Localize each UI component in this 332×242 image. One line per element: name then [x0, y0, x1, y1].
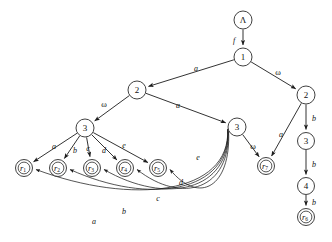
node-label: 3	[304, 136, 309, 146]
edge-layer	[34, 30, 306, 206]
edge-label-n3L-to-r3: c	[86, 144, 90, 153]
edge-label-n2L-to-n3L: ω	[101, 99, 107, 109]
edge-label-n3L-to-r4: d	[102, 146, 107, 155]
edge-label-n3L-to-r2: b	[73, 146, 77, 155]
node-layer: Λ1223334r1r2r3r4r5r7r6	[16, 11, 316, 226]
node-label: Λ	[240, 15, 247, 25]
edge-n2L-to-n3L	[95, 96, 130, 121]
node-n4R[interactable]: 4	[298, 178, 315, 195]
edge-label-n3R-to-n4R: b	[312, 160, 316, 169]
edge-label-n3M-to-r1: a	[92, 217, 96, 226]
graph-figure: Λ1223334r1r2r3r4r5r7r6 faωωabbbaωabcdeed…	[0, 0, 332, 242]
graph-canvas: Λ1223334r1r2r3r4r5r7r6 faωωabbbaωabcdeed…	[0, 0, 332, 242]
edge-label-n4R-to-r6: b	[312, 198, 316, 207]
node-label: 2	[304, 90, 309, 100]
node-r3[interactable]: r3	[84, 160, 101, 177]
edge-n1-to-n2R	[251, 62, 296, 89]
node-label: 3	[235, 122, 240, 132]
edge-label-n1-to-n2R: ω	[275, 67, 281, 77]
edge-n2L-to-n3M	[146, 93, 226, 123]
edge-n1-to-n2L	[149, 60, 234, 87]
node-r2[interactable]: r2	[50, 160, 67, 177]
node-n1[interactable]: 1	[234, 48, 252, 66]
edge-label-n2R-to-r7: a	[279, 130, 283, 139]
edge-n3M-to-r3	[104, 130, 228, 189]
node-label: 3	[83, 123, 88, 133]
node-r5[interactable]: r5	[150, 160, 167, 177]
node-label: 2	[135, 85, 140, 95]
edge-label-n3M-to-r2: b	[122, 207, 126, 216]
edge-n2R-to-r7	[272, 103, 302, 156]
node-r4[interactable]: r4	[117, 160, 134, 177]
node-n3L[interactable]: 3	[76, 119, 94, 137]
edge-label-n3L-to-r5: e	[122, 141, 126, 150]
edge-label-n3M-to-r7: ω	[250, 141, 256, 151]
node-n3R[interactable]: 3	[298, 133, 315, 150]
edge-label-n3M-to-r5: e	[196, 153, 200, 162]
edge-label-n2R-to-n3R: b	[312, 114, 316, 123]
node-label: 4	[304, 181, 309, 191]
node-r1[interactable]: r1	[16, 160, 33, 177]
edge-label-n1-to-n2L: a	[194, 64, 198, 73]
edge-label-n3L-to-r1: a	[52, 142, 56, 151]
edge-label-n3M-to-r3: c	[156, 194, 160, 203]
edge-label-root-to-n1: f	[233, 36, 237, 45]
edge-label-n2L-to-n3M: a	[176, 101, 180, 110]
node-root[interactable]: Λ	[234, 11, 252, 29]
node-n3M[interactable]: 3	[228, 118, 246, 136]
node-n2R[interactable]: 2	[297, 86, 315, 104]
node-r6[interactable]: r6	[298, 209, 315, 226]
node-r7[interactable]: r7	[258, 158, 275, 175]
node-label: 1	[241, 52, 246, 62]
node-n2L[interactable]: 2	[128, 81, 146, 99]
